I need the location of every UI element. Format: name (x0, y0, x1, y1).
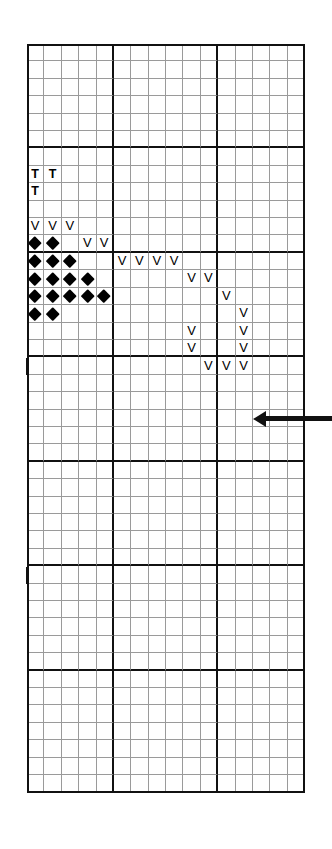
chart-cell[interactable] (149, 479, 166, 496)
chart-cell[interactable] (44, 392, 61, 409)
chart-cell[interactable] (253, 549, 270, 566)
chart-cell[interactable] (79, 636, 96, 653)
chart-cell[interactable] (270, 357, 287, 374)
chart-cell[interactable] (236, 96, 253, 113)
chart-cell[interactable] (183, 705, 200, 722)
chart-cell[interactable] (114, 566, 131, 583)
chart-cell[interactable] (27, 410, 44, 427)
chart-cell[interactable] (270, 723, 287, 740)
chart-cell[interactable] (79, 584, 96, 601)
chart-cell[interactable] (253, 340, 270, 357)
chart-cell[interactable] (236, 462, 253, 479)
chart-cell[interactable] (79, 653, 96, 670)
chart-cell[interactable] (236, 427, 253, 444)
chart-cell[interactable] (62, 410, 79, 427)
chart-cell[interactable] (131, 218, 148, 235)
chart-cell[interactable] (201, 235, 218, 252)
chart-cell[interactable] (131, 531, 148, 548)
chart-cell[interactable] (79, 618, 96, 635)
chart-cell[interactable] (253, 514, 270, 531)
chart-cell[interactable] (44, 357, 61, 374)
chart-cell[interactable] (253, 166, 270, 183)
chart-cell[interactable] (201, 636, 218, 653)
chart-cell[interactable] (288, 61, 305, 78)
chart-cell[interactable] (270, 61, 287, 78)
chart-cell[interactable] (183, 758, 200, 775)
chart-cell[interactable] (27, 392, 44, 409)
chart-cell[interactable] (253, 758, 270, 775)
chart-cell[interactable] (97, 549, 114, 566)
chart-cell[interactable] (270, 775, 287, 792)
chart-cell[interactable] (253, 44, 270, 61)
chart-cell[interactable] (236, 201, 253, 218)
chart-cell[interactable] (201, 549, 218, 566)
chart-cell[interactable] (97, 392, 114, 409)
chart-cell[interactable] (114, 705, 131, 722)
chart-cell[interactable] (79, 340, 96, 357)
chart-cell[interactable] (79, 270, 96, 287)
chart-cell[interactable] (79, 166, 96, 183)
chart-cell[interactable] (131, 323, 148, 340)
chart-cell[interactable] (236, 79, 253, 96)
chart-cell[interactable] (236, 410, 253, 427)
chart-cell[interactable] (166, 44, 183, 61)
chart-cell[interactable] (270, 584, 287, 601)
chart-cell[interactable] (149, 462, 166, 479)
chart-cell[interactable] (183, 566, 200, 583)
chart-cell[interactable] (131, 758, 148, 775)
chart-cell[interactable] (288, 427, 305, 444)
chart-cell[interactable] (183, 79, 200, 96)
chart-cell[interactable] (97, 653, 114, 670)
chart-cell[interactable] (201, 131, 218, 148)
chart-cell[interactable] (166, 671, 183, 688)
chart-cell[interactable] (149, 549, 166, 566)
chart-cell[interactable] (288, 653, 305, 670)
chart-cell[interactable] (114, 636, 131, 653)
chart-cell[interactable] (97, 671, 114, 688)
chart-cell[interactable] (79, 305, 96, 322)
chart-cell[interactable] (27, 514, 44, 531)
chart-cell[interactable] (236, 497, 253, 514)
chart-cell[interactable] (62, 131, 79, 148)
chart-cell[interactable] (97, 44, 114, 61)
chart-cell[interactable] (253, 61, 270, 78)
chart-cell[interactable] (131, 375, 148, 392)
chart-cell[interactable] (288, 148, 305, 165)
chart-cell[interactable] (62, 723, 79, 740)
chart-cell[interactable] (27, 61, 44, 78)
chart-cell[interactable] (149, 444, 166, 461)
chart-cell[interactable] (270, 653, 287, 670)
chart-cell[interactable] (27, 584, 44, 601)
chart-cell[interactable] (201, 653, 218, 670)
chart-cell[interactable] (62, 323, 79, 340)
chart-cell[interactable] (79, 288, 96, 305)
chart-cell[interactable] (218, 671, 235, 688)
chart-cell[interactable] (236, 723, 253, 740)
chart-cell[interactable] (79, 723, 96, 740)
chart-cell[interactable] (62, 566, 79, 583)
chart-cell[interactable] (253, 775, 270, 792)
chart-cell[interactable] (183, 166, 200, 183)
chart-cell[interactable] (183, 462, 200, 479)
chart-cell[interactable] (201, 584, 218, 601)
chart-cell[interactable] (201, 375, 218, 392)
chart-cell[interactable] (97, 305, 114, 322)
chart-cell[interactable] (44, 270, 61, 287)
chart-cell[interactable] (236, 131, 253, 148)
chart-cell[interactable] (44, 549, 61, 566)
chart-cell[interactable] (253, 305, 270, 322)
chart-cell[interactable]: V (183, 270, 200, 287)
chart-cell[interactable] (288, 218, 305, 235)
chart-cell[interactable] (253, 584, 270, 601)
chart-cell[interactable] (236, 758, 253, 775)
chart-cell[interactable] (97, 288, 114, 305)
chart-cell[interactable] (201, 61, 218, 78)
chart-cell[interactable] (183, 235, 200, 252)
chart-cell[interactable] (44, 775, 61, 792)
chart-cell[interactable] (270, 479, 287, 496)
chart-cell[interactable] (183, 479, 200, 496)
chart-cell[interactable] (253, 601, 270, 618)
chart-cell[interactable] (183, 253, 200, 270)
chart-cell[interactable] (62, 497, 79, 514)
chart-cell[interactable] (131, 584, 148, 601)
